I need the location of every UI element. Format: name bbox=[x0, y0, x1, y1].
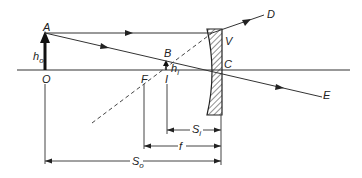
label-D: D bbox=[267, 8, 275, 20]
refracted-ray-VD bbox=[212, 15, 264, 33]
virtual-ray-dashed bbox=[92, 33, 212, 123]
label-O: O bbox=[42, 73, 51, 85]
parallel-ray-arrow bbox=[125, 30, 133, 36]
label-B: B bbox=[164, 47, 171, 59]
label-f: f bbox=[179, 140, 183, 152]
dim-so-arrow-l bbox=[45, 159, 52, 164]
refracted-ray-VD-arrow bbox=[242, 19, 251, 26]
dim-si-arrow-r bbox=[214, 128, 221, 133]
label-C: C bbox=[224, 58, 232, 70]
label-V: V bbox=[225, 35, 234, 47]
label-So: So bbox=[132, 155, 144, 170]
label-ho: ho bbox=[33, 50, 44, 65]
label-Si: Si bbox=[192, 123, 201, 138]
chief-ray-arrow-1 bbox=[100, 43, 109, 49]
ray-diagram: A O ho B hi F I C V D E Si f So bbox=[0, 0, 362, 178]
label-hi: hi bbox=[171, 62, 179, 77]
label-E: E bbox=[323, 89, 331, 101]
label-A: A bbox=[42, 21, 50, 33]
label-F: F bbox=[141, 73, 149, 85]
dim-f-arrow-l bbox=[144, 144, 151, 149]
dim-so-arrow-r bbox=[214, 159, 221, 164]
dim-si-arrow-l bbox=[167, 128, 174, 133]
label-I: I bbox=[165, 73, 168, 85]
dim-f-arrow-r bbox=[214, 144, 221, 149]
chief-ray-arrow-2 bbox=[275, 84, 284, 90]
